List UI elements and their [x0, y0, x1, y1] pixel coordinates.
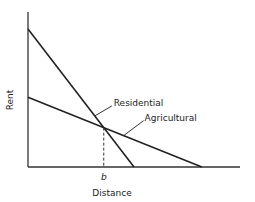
bid-rent-chart: bResidentialAgricultural Rent Distance — [0, 0, 255, 202]
intersection-label-b: b — [101, 172, 107, 182]
agricultural-leader-line — [124, 121, 144, 136]
residential-leader-line — [95, 106, 112, 116]
y-axis-label: Rent — [5, 89, 15, 110]
agricultural-label: Agricultural — [145, 113, 197, 123]
residential-label: Residential — [114, 98, 164, 108]
axes — [28, 12, 240, 167]
x-axis-label: Distance — [92, 188, 132, 198]
annotation-layer: bResidentialAgricultural — [95, 98, 197, 182]
